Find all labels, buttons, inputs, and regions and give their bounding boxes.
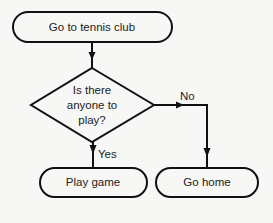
arrow-down-icon	[89, 52, 96, 60]
decision-label-line-1: Is there	[73, 84, 111, 96]
node-start: Go to tennis club	[13, 12, 172, 42]
arrow-down-icon	[90, 145, 97, 154]
arrow-down-icon	[204, 148, 211, 157]
decision-label-line-3: play?	[78, 114, 106, 126]
node-decision: Is there anyone to play?	[31, 68, 154, 142]
node-start-label: Go to tennis club	[49, 21, 135, 33]
node-home-label: Go home	[183, 176, 230, 188]
edge-label-yes: Yes	[98, 148, 117, 160]
node-play-label: Play game	[66, 176, 120, 188]
edge-decision-play: Yes	[90, 142, 118, 168]
edge-label-no: No	[180, 90, 195, 102]
connector-line	[154, 105, 207, 168]
edge-start-decision	[89, 42, 96, 68]
flowchart: Go to tennis club Is there anyone to pla…	[0, 0, 273, 223]
node-play: Play game	[40, 168, 147, 197]
arrow-right-icon	[176, 102, 184, 109]
decision-label-line-2: anyone to	[67, 99, 118, 111]
edge-decision-home: No	[154, 90, 211, 168]
node-home: Go home	[156, 168, 258, 197]
